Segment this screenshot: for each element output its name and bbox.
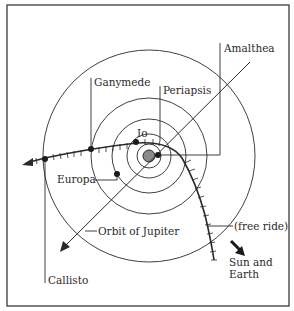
label-orbit-of-jupiter: Orbit of Jupiter [98, 225, 180, 237]
sun-earth-arrow-icon [231, 241, 245, 256]
label-amalthea: Amalthea [223, 42, 275, 54]
label-sun-and: Sun and [229, 256, 273, 268]
jupiter-flyby-diagram: Amalthea Ganymede Periapsis Io Europa Or… [0, 0, 294, 311]
moon-io-dot [133, 139, 139, 145]
label-ganymede: Ganymede [94, 76, 150, 88]
trajectory-arrow-icon [22, 158, 33, 166]
label-free-ride: (free ride) [234, 220, 288, 232]
label-periapsis: Periapsis [163, 84, 211, 96]
label-io: Io [137, 127, 147, 139]
europa-leader [95, 174, 117, 180]
jupiter-planet [143, 150, 155, 162]
label-callisto: Callisto [48, 274, 88, 286]
label-europa: Europa [57, 173, 96, 185]
amalthea-leader [158, 43, 220, 155]
label-earth: Earth [229, 268, 259, 280]
